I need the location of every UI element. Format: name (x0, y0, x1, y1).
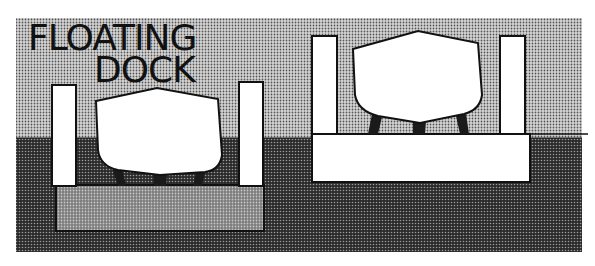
diagram-title-line-2: DOCK (94, 52, 195, 88)
